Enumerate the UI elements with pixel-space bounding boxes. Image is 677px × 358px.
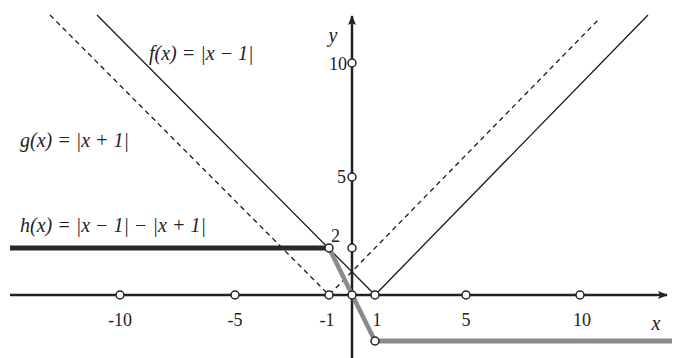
g-label: g(x) = |x + 1| bbox=[20, 129, 129, 152]
graph-canvas: -10 -5 -1 1 5 10 2 5 10 x y f(x) = |x − … bbox=[0, 0, 677, 358]
tick-markers bbox=[116, 59, 584, 345]
x-tick-label: 1 bbox=[373, 310, 382, 330]
x-axis-label: x bbox=[651, 312, 661, 334]
y-tick-label: 2 bbox=[331, 226, 340, 246]
f-label: f(x) = |x − 1| bbox=[149, 42, 254, 65]
y-axis-label: y bbox=[327, 24, 338, 47]
x-tick-label: 5 bbox=[462, 310, 471, 330]
y-tick-label: 5 bbox=[337, 167, 346, 187]
h-label: h(x) = |x − 1| − |x + 1| bbox=[20, 214, 206, 237]
g-curve bbox=[50, 15, 600, 295]
x-tick-label: -10 bbox=[108, 310, 132, 330]
x-tick-label: 10 bbox=[573, 310, 591, 330]
x-tick-label: -5 bbox=[228, 310, 243, 330]
y-tick-label: 10 bbox=[329, 54, 347, 74]
x-tick-label: -1 bbox=[320, 310, 335, 330]
